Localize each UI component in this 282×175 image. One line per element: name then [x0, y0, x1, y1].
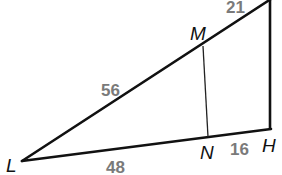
vertex-label-h: H — [262, 135, 276, 156]
segment-MN — [203, 46, 208, 137]
vertex-label-l: L — [6, 155, 17, 175]
vertex-label-n: N — [200, 142, 214, 163]
measure-ln: 48 — [106, 158, 125, 175]
vertex-label-m: M — [190, 23, 206, 44]
measure-nh: 16 — [230, 140, 249, 159]
measure-lm: 56 — [101, 81, 120, 100]
side-LT — [22, 0, 271, 161]
diagram-canvas: M N H L 21 56 48 16 — [0, 0, 282, 175]
triangle-diagram: M N H L 21 56 48 16 — [0, 0, 282, 175]
measure-mt: 21 — [226, 0, 245, 17]
